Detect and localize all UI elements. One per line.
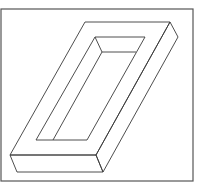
inner-wall-top-edge (95, 37, 136, 52)
front-face (10, 155, 103, 172)
inner-opening (36, 37, 145, 140)
frame-drawing (0, 0, 199, 182)
right-side-face (96, 22, 178, 172)
frame-diagram (0, 0, 199, 182)
